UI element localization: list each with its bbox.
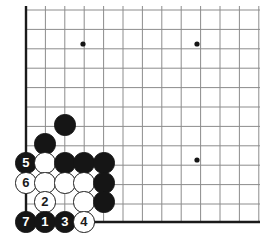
stone-white bbox=[54, 172, 75, 193]
stone-move-3: 3 bbox=[54, 211, 75, 232]
stone-white bbox=[73, 172, 94, 193]
stone-move-number: 4 bbox=[80, 215, 87, 228]
stone-black bbox=[73, 152, 94, 173]
stone-black bbox=[93, 152, 114, 173]
stone-move-number: 2 bbox=[41, 195, 48, 208]
stone-layer: 5627134 bbox=[0, 0, 260, 245]
stone-move-7: 7 bbox=[15, 211, 36, 232]
go-board-diagram: 5627134 bbox=[0, 0, 260, 245]
stone-black bbox=[93, 191, 114, 212]
stone-move-6: 6 bbox=[15, 172, 36, 193]
stone-move-number: 5 bbox=[22, 156, 29, 169]
stone-black bbox=[54, 114, 75, 135]
stone-move-number: 1 bbox=[41, 215, 48, 228]
stone-white bbox=[34, 152, 55, 173]
stone-black bbox=[93, 172, 114, 193]
stone-white bbox=[34, 172, 55, 193]
stone-move-5: 5 bbox=[15, 152, 36, 173]
stone-move-1: 1 bbox=[34, 211, 55, 232]
stone-white bbox=[73, 191, 94, 212]
stone-black bbox=[54, 152, 75, 173]
stone-move-4: 4 bbox=[73, 211, 94, 232]
stone-black bbox=[34, 133, 55, 154]
stone-move-number: 3 bbox=[61, 215, 68, 228]
stone-move-number: 7 bbox=[22, 215, 29, 228]
stone-move-number: 6 bbox=[22, 176, 29, 189]
stone-move-2: 2 bbox=[34, 191, 55, 212]
